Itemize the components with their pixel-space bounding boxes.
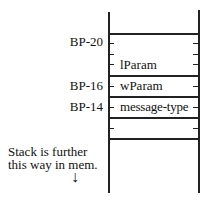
stack-divider — [108, 138, 199, 140]
stack-left-wall — [108, 12, 110, 193]
stack-divider — [108, 75, 199, 77]
byte-tick — [193, 86, 198, 87]
cell-lparam: lParam — [120, 58, 157, 71]
byte-tick — [109, 107, 114, 108]
byte-tick — [109, 43, 114, 44]
offset-label-bp20: BP-20 — [70, 35, 103, 48]
offset-label-bp14: BP-14 — [70, 100, 103, 113]
byte-tick — [109, 64, 114, 65]
byte-tick — [193, 43, 198, 44]
byte-tick — [109, 86, 114, 87]
byte-tick — [109, 128, 114, 129]
offset-label-bp16: BP-16 — [70, 79, 103, 92]
cell-message-type: message-type — [120, 100, 188, 113]
byte-tick — [109, 54, 114, 55]
arrow-down-icon: ↓ — [71, 170, 79, 183]
byte-tick — [193, 64, 198, 65]
stack-divider — [108, 96, 199, 98]
byte-tick — [193, 128, 198, 129]
stack-right-wall — [198, 10, 200, 193]
stack-divider — [108, 33, 199, 35]
cell-wparam: wParam — [120, 79, 163, 92]
byte-tick — [193, 107, 198, 108]
stack-divider — [108, 117, 199, 119]
stack-note-line2: this way in mem. — [8, 158, 98, 171]
byte-tick — [193, 54, 198, 55]
